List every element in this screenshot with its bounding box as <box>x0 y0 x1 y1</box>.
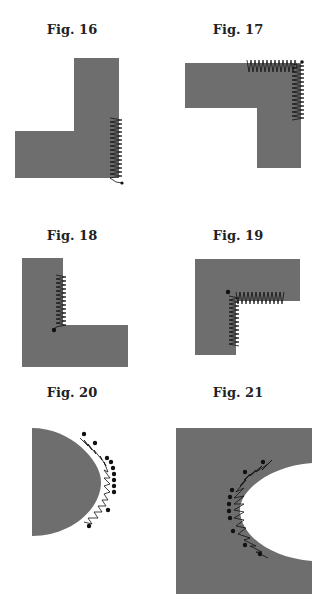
figure-21-notched-block <box>0 0 321 598</box>
